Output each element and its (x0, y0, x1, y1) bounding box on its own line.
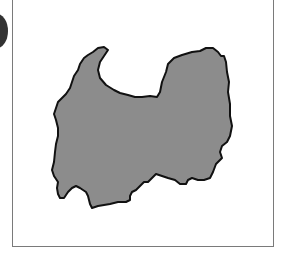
map-canvas (0, 0, 285, 263)
region-shape[interactable] (52, 47, 232, 208)
